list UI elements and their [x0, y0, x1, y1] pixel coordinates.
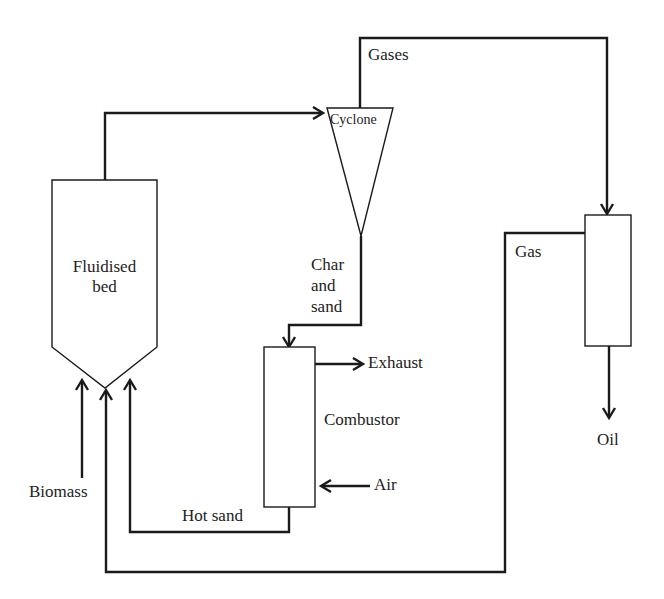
- hot-sand-label: Hot sand: [182, 506, 243, 526]
- exhaust-label: Exhaust: [368, 353, 423, 373]
- air-label: Air: [374, 475, 397, 495]
- gases-label: Gases: [368, 45, 409, 65]
- char-sand-label-line2: and: [311, 275, 344, 296]
- condenser-vessel: [585, 215, 631, 346]
- char-sand-label: Char and sand: [311, 254, 344, 317]
- char-sand-label-line1: Char: [311, 254, 344, 275]
- fluidised-bed-label: Fluidised bed: [52, 257, 157, 297]
- fluidised-bed-label-line1: Fluidised: [52, 257, 157, 277]
- cyclone-label: Cyclone: [330, 110, 377, 130]
- char-sand-label-line3: sand: [311, 296, 344, 317]
- gas-label: Gas: [515, 242, 541, 262]
- combustor-vessel: [264, 347, 315, 507]
- oil-label: Oil: [597, 430, 619, 450]
- biomass-label: Biomass: [29, 482, 88, 502]
- gas-recycle-line: [106, 233, 585, 572]
- combustor-label: Combustor: [324, 410, 400, 430]
- bed-to-cyclone-line: [105, 113, 322, 180]
- fluidised-bed-label-line2: bed: [52, 277, 157, 297]
